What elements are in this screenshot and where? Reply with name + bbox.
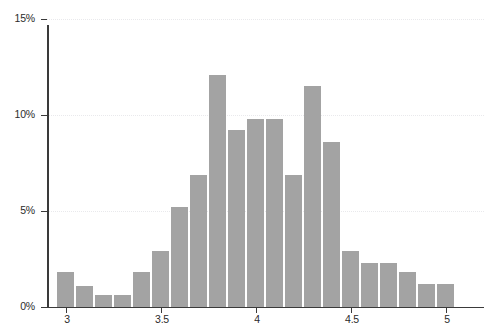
y-axis-label: 15% bbox=[15, 12, 35, 24]
x-axis-label: 3 bbox=[64, 313, 70, 325]
bar bbox=[228, 130, 245, 307]
bar bbox=[95, 295, 112, 307]
y-tick bbox=[41, 211, 47, 212]
x-axis-label: 4 bbox=[254, 313, 260, 325]
bar bbox=[190, 175, 207, 307]
x-axis-label: 5 bbox=[444, 313, 450, 325]
bar bbox=[133, 272, 150, 307]
bar bbox=[114, 295, 131, 307]
bar bbox=[323, 142, 340, 307]
x-axis-line bbox=[41, 307, 484, 309]
x-axis-label: 3.5 bbox=[155, 313, 169, 325]
y-tick bbox=[41, 307, 47, 308]
plot-area: 0%5%10%15% 33.544.55 bbox=[0, 0, 484, 334]
bar bbox=[304, 86, 321, 307]
y-tick bbox=[41, 19, 47, 20]
y-axis-label: 0% bbox=[20, 300, 35, 312]
bar bbox=[266, 119, 283, 307]
bar bbox=[437, 284, 454, 307]
bar bbox=[285, 175, 302, 307]
bar bbox=[399, 272, 416, 307]
bar bbox=[418, 284, 435, 307]
bar bbox=[171, 207, 188, 307]
y-tick bbox=[41, 115, 47, 116]
bar bbox=[361, 263, 378, 307]
y-axis-line bbox=[47, 25, 49, 308]
bar bbox=[247, 119, 264, 307]
y-axis-label: 5% bbox=[20, 204, 35, 216]
x-axis-label: 4.5 bbox=[345, 313, 359, 325]
bar bbox=[342, 251, 359, 307]
bar bbox=[209, 75, 226, 307]
histogram-chart: 0%5%10%15% 33.544.55 bbox=[0, 0, 484, 334]
bar bbox=[57, 272, 74, 307]
bar bbox=[152, 251, 169, 307]
bar bbox=[76, 286, 93, 307]
y-axis-label: 10% bbox=[15, 108, 35, 120]
gridline-15 bbox=[47, 19, 484, 21]
gridline-10 bbox=[47, 115, 484, 117]
bar bbox=[380, 263, 397, 307]
